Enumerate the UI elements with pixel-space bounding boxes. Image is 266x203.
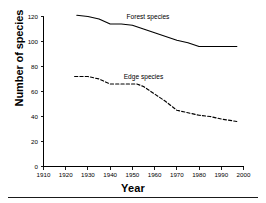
y-tick-label-100: 100 (28, 38, 39, 45)
x-tick-label-2000: 2000 (237, 171, 251, 178)
x-tick-label-1960: 1960 (148, 171, 162, 178)
series-line-edge-species (75, 77, 237, 122)
series-label-edge-species: Edge species (124, 73, 164, 81)
x-tick-label-1940: 1940 (103, 171, 117, 178)
y-tick-label-80: 80 (31, 63, 38, 70)
y-tick-label-60: 60 (31, 88, 38, 95)
x-tick-label-1980: 1980 (192, 171, 206, 178)
y-axis-title: Number of species (13, 0, 25, 123)
y-tick-label-20: 20 (31, 138, 38, 145)
footer-divider (8, 197, 258, 198)
y-tick-label-0: 0 (35, 163, 39, 170)
chart-axes (44, 17, 244, 167)
data-series-group (75, 15, 237, 121)
x-tick-label-1920: 1920 (59, 171, 73, 178)
series-label-forest-species: Forest species (126, 13, 170, 21)
x-axis-title: Year (0, 182, 266, 194)
x-tick-label-1910: 1910 (37, 171, 51, 178)
y-tick-labels: 020406080100120 (28, 13, 39, 170)
x-tick-label-1950: 1950 (126, 171, 140, 178)
x-tick-label-1930: 1930 (81, 171, 95, 178)
x-tick-label-1990: 1990 (214, 171, 228, 178)
y-tick-label-120: 120 (28, 13, 39, 20)
line-chart-plot: 020406080100120 191019201930194019501960… (0, 0, 266, 203)
series-inline-labels: Forest speciesEdge species (124, 13, 170, 81)
x-tick-label-1970: 1970 (170, 171, 184, 178)
chart-figure: 020406080100120 191019201930194019501960… (0, 0, 266, 203)
y-tick-label-40: 40 (31, 113, 38, 120)
x-tick-labels: 1910192019301940195019601970198019902000 (37, 171, 251, 178)
